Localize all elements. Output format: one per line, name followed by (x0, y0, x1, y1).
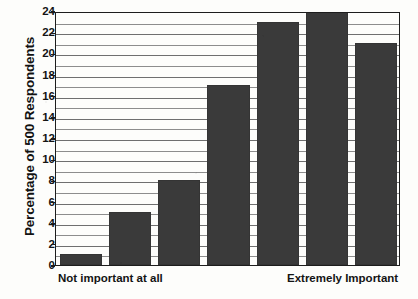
bar (207, 85, 249, 265)
bar (306, 12, 348, 265)
bar (158, 180, 200, 265)
bar (355, 43, 397, 265)
bar (257, 22, 299, 265)
bar (60, 254, 102, 265)
bar-chart: Percentage of 500 Respondents 0246810121… (0, 0, 418, 299)
bar (109, 212, 151, 265)
x-axis-label-left: Not important at all (58, 272, 163, 284)
y-axis-tick-group: 024681012141618202224 (22, 0, 55, 299)
x-axis-label-right: Extremely Important (287, 272, 398, 284)
plot-area (55, 12, 400, 266)
